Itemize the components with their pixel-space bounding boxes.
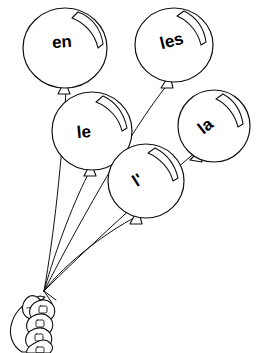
hand[interactable] xyxy=(10,291,56,353)
illustration-canvas: en les le la l' xyxy=(0,0,256,353)
balloon-les[interactable]: les xyxy=(135,8,213,88)
string-le xyxy=(44,171,90,291)
balloon-la[interactable]: la xyxy=(178,90,250,162)
balloon-en-label: en xyxy=(51,32,72,52)
balloon-lapostrophe[interactable]: l' xyxy=(108,144,184,224)
balloons-illustration: en les le la l' xyxy=(0,0,256,353)
string-tail xyxy=(44,291,56,300)
string-lapostrophe xyxy=(44,218,134,291)
balloon-en[interactable]: en xyxy=(23,8,107,94)
balloon-le-label: le xyxy=(76,122,92,142)
